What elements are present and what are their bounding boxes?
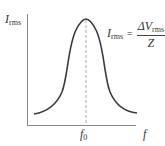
formula-fraction: ΔVrms Z (137, 20, 165, 49)
resonant-frequency-label: f0 (80, 128, 87, 142)
current-formula: Irms = ΔVrms Z (107, 20, 165, 49)
y-axis-label: Irms (5, 13, 21, 27)
x-axis-label: f (143, 128, 146, 140)
